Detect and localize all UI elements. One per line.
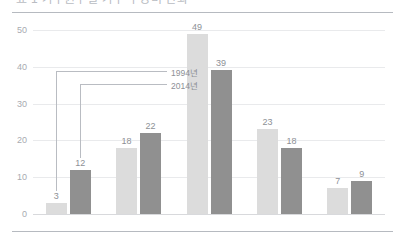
- bar-1994년-2: [116, 148, 137, 214]
- chart-screenshot: 표 1 가구원수별 가구 구성비 변화 01020304050318492371…: [0, 0, 401, 238]
- bar-1994년-1: [46, 203, 67, 214]
- bar-2014년-3: [211, 70, 232, 214]
- bar-1994년-3: [187, 34, 208, 214]
- bar-2014년-5: [351, 181, 372, 214]
- y-axis-tick-50: 50: [17, 25, 27, 35]
- top-divider: [12, 12, 393, 13]
- bar-2014년-2: [140, 133, 161, 214]
- bar-value-label: 22: [146, 121, 156, 131]
- bar-2014년-1: [70, 170, 91, 214]
- y-axis-tick-10: 10: [17, 172, 27, 182]
- bar-value-label: 23: [262, 117, 272, 127]
- bar-1994년-4: [257, 129, 278, 214]
- bar-value-label: 49: [192, 22, 202, 32]
- plot-area: 01020304050318492371222391891994년2014년: [33, 30, 385, 214]
- gridline-50: [33, 30, 385, 31]
- legend-label-2014년: 2014년: [171, 79, 198, 91]
- bar-value-label: 39: [216, 58, 226, 68]
- bar-value-label: 12: [75, 158, 85, 168]
- bar-value-label: 7: [335, 176, 340, 186]
- gridline-0: [33, 214, 385, 215]
- legend-leader-horizontal: [80, 84, 167, 85]
- y-axis-tick-30: 30: [17, 99, 27, 109]
- y-axis-tick-40: 40: [17, 62, 27, 72]
- bar-value-label: 9: [359, 169, 364, 179]
- bar-value-label: 18: [286, 136, 296, 146]
- legend-leader-vertical: [56, 71, 57, 191]
- cropped-title-strip: 표 1 가구원수별 가구 구성비 변화: [0, 0, 401, 11]
- gridline-20: [33, 140, 385, 141]
- legend-label-1994년: 1994년: [171, 66, 198, 78]
- bottom-divider: [12, 231, 393, 232]
- bar-2014년-4: [281, 148, 302, 214]
- y-axis-tick-0: 0: [22, 209, 27, 219]
- bar-value-label: 18: [122, 136, 132, 146]
- bar-value-label: 3: [54, 191, 59, 201]
- gridline-40: [33, 67, 385, 68]
- gridline-30: [33, 104, 385, 105]
- legend-leader-horizontal: [56, 71, 167, 72]
- bar-1994년-5: [327, 188, 348, 214]
- legend-leader-vertical: [80, 84, 81, 158]
- page-title: 표 1 가구원수별 가구 구성비 변화: [16, 0, 188, 6]
- y-axis-tick-20: 20: [17, 135, 27, 145]
